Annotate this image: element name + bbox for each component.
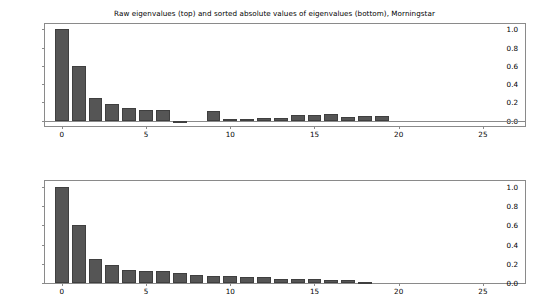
y-axis-tick-label: 0.2 <box>507 98 518 107</box>
bar <box>72 225 86 283</box>
x-axis-tick <box>62 126 63 129</box>
y-axis-tick <box>42 29 45 30</box>
x-axis-tick-label: 5 <box>144 287 149 296</box>
bar <box>105 104 119 121</box>
bar <box>139 110 153 120</box>
bar <box>341 117 355 121</box>
x-axis-tick-label: 0 <box>60 130 65 139</box>
bar <box>223 119 237 121</box>
x-axis-tick-label: 5 <box>144 130 149 139</box>
figure-title: Raw eigenvalues (top) and sorted absolut… <box>0 9 549 18</box>
x-axis-tick-label: 25 <box>478 130 487 139</box>
y-axis-tick <box>42 206 45 207</box>
bar <box>207 276 221 283</box>
y-axis-tick-label: 0.4 <box>507 80 518 89</box>
y-axis-tick-label: 0.8 <box>507 43 518 52</box>
y-axis-tick <box>42 48 45 49</box>
x-axis-tick-label: 20 <box>394 287 403 296</box>
bar <box>308 115 322 120</box>
y-axis-tick-label: 0.4 <box>507 240 518 249</box>
bar <box>105 265 119 283</box>
plot-area-bottom: 0.00.20.40.60.81.00510152025 <box>45 181 525 283</box>
bar <box>240 119 254 121</box>
x-axis-tick-label: 15 <box>310 287 319 296</box>
y-axis-tick-label: 0.6 <box>507 221 518 230</box>
x-axis-tick <box>146 126 147 129</box>
bar <box>358 282 372 284</box>
bar <box>375 116 389 120</box>
bar <box>223 276 237 283</box>
zero-baseline <box>45 121 525 122</box>
bar <box>139 271 153 283</box>
x-axis-tick-label: 10 <box>226 130 235 139</box>
x-axis-tick-label: 20 <box>394 130 403 139</box>
bar <box>291 115 305 120</box>
y-axis-tick-label: 1.0 <box>507 25 518 34</box>
x-axis-tick-label: 15 <box>310 130 319 139</box>
bar <box>55 187 69 283</box>
bar <box>122 108 136 120</box>
bar <box>324 280 338 283</box>
y-axis-tick-label: 0.0 <box>507 279 518 288</box>
x-axis-tick-label: 10 <box>226 287 235 296</box>
bar <box>207 111 221 121</box>
y-axis-tick <box>42 66 45 67</box>
bar <box>156 110 170 120</box>
bar <box>274 279 288 283</box>
axes-bottom-sorted-abs-eigenvalues: 0.00.20.40.60.81.00510152025 <box>44 180 526 284</box>
bar <box>156 271 170 283</box>
bar <box>308 279 322 283</box>
x-axis-tick <box>483 283 484 286</box>
bar <box>274 118 288 121</box>
x-axis-tick <box>230 126 231 129</box>
bar <box>341 280 355 283</box>
bar <box>190 275 204 283</box>
y-axis-tick <box>42 245 45 246</box>
y-axis-tick <box>42 283 45 284</box>
bar <box>257 277 271 283</box>
bar <box>358 116 372 120</box>
x-axis-tick-label: 0 <box>60 287 65 296</box>
bar <box>173 273 187 283</box>
bar <box>240 277 254 283</box>
y-axis-tick <box>42 187 45 188</box>
x-axis-tick <box>399 126 400 129</box>
x-axis-tick <box>230 283 231 286</box>
bar <box>89 259 103 283</box>
axes-top-raw-eigenvalues: 0.00.20.40.60.81.00510152025 <box>44 23 526 127</box>
y-axis-tick-label: 1.0 <box>507 182 518 191</box>
bar <box>324 114 338 120</box>
x-axis-tick <box>314 126 315 129</box>
y-axis-tick <box>42 102 45 103</box>
bar <box>173 121 187 123</box>
x-axis-tick-label: 25 <box>478 287 487 296</box>
x-axis-tick <box>62 283 63 286</box>
x-axis-tick <box>314 283 315 286</box>
y-axis-tick-label: 0.2 <box>507 259 518 268</box>
x-axis-tick <box>399 283 400 286</box>
bar <box>257 118 271 121</box>
bar <box>122 270 136 283</box>
bar <box>55 29 69 120</box>
plot-area-top: 0.00.20.40.60.81.00510152025 <box>45 24 525 126</box>
bar <box>72 66 86 121</box>
y-axis-tick <box>42 264 45 265</box>
x-axis-tick <box>146 283 147 286</box>
y-axis-tick-label: 0.6 <box>507 61 518 70</box>
bar <box>89 98 103 121</box>
y-axis-tick <box>42 84 45 85</box>
y-axis-tick <box>42 225 45 226</box>
y-axis-tick-label: 0.8 <box>507 202 518 211</box>
bar <box>291 279 305 283</box>
x-axis-tick <box>483 126 484 129</box>
